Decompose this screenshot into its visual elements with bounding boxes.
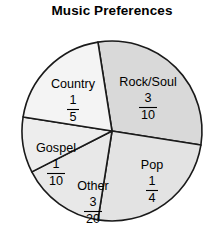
slice-label-name: Country	[51, 77, 96, 91]
slice-label-name: Pop	[141, 158, 163, 172]
slice-fraction-denominator: 10	[49, 174, 63, 188]
slice-fraction-numerator: 3	[144, 91, 151, 105]
slice-label-name: Other	[77, 179, 109, 193]
slice-fraction-denominator: 10	[141, 108, 155, 122]
pie-slice-group	[22, 41, 202, 221]
slice-fraction-numerator: 1	[69, 93, 76, 107]
slice-label-name: Rock/Soul	[119, 75, 176, 89]
slice-fraction-denominator: 4	[148, 191, 155, 205]
slice-fraction-denominator: 5	[69, 110, 76, 124]
slice-label-name: Gospel	[36, 141, 76, 155]
pie-chart-figure: Music Preferences Rock/Soul310Pop14Other…	[0, 0, 224, 246]
slice-fraction-denominator: 20	[86, 212, 100, 226]
pie-chart-svg: Rock/Soul310Pop14Other320Gospel110Countr…	[0, 0, 224, 246]
slice-fraction-numerator: 1	[148, 174, 155, 188]
slice-fraction-numerator: 3	[89, 195, 96, 209]
slice-fraction-numerator: 1	[52, 157, 59, 171]
